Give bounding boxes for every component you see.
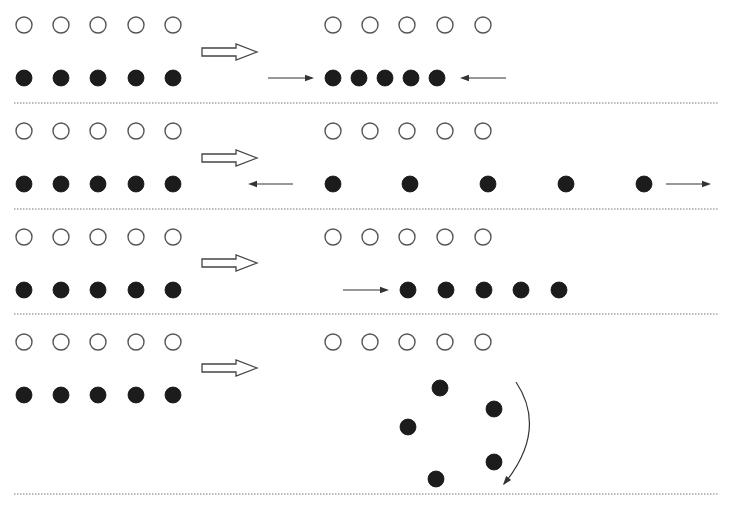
- filled-circle: [53, 176, 69, 192]
- open-circle: [16, 17, 32, 33]
- filled-circle: [325, 70, 341, 86]
- arrowhead-icon: [460, 75, 469, 81]
- open-circle: [437, 17, 453, 33]
- hollow-transition-arrow-icon: [202, 360, 257, 376]
- open-circle: [399, 229, 415, 245]
- arrowhead-icon: [702, 181, 711, 187]
- panel-3-shift: [14, 229, 718, 314]
- filled-circle: [476, 282, 492, 298]
- arrowhead-icon: [380, 287, 389, 293]
- open-circle: [437, 334, 453, 350]
- filled-circle: [325, 176, 341, 192]
- filled-circle: [438, 282, 454, 298]
- filled-circle: [636, 176, 652, 192]
- filled-circle: [429, 70, 445, 86]
- open-circle: [128, 123, 144, 139]
- filled-circle: [486, 454, 502, 470]
- open-circle: [90, 17, 106, 33]
- open-circle: [325, 334, 341, 350]
- filled-circle: [53, 70, 69, 86]
- filled-circle: [53, 282, 69, 298]
- open-circle: [90, 334, 106, 350]
- filled-circle: [16, 387, 32, 403]
- filled-circle: [128, 70, 144, 86]
- open-circle: [53, 334, 69, 350]
- filled-circle: [90, 70, 106, 86]
- open-circle: [362, 229, 378, 245]
- open-circle: [475, 17, 491, 33]
- filled-circle: [403, 70, 419, 86]
- open-circle: [90, 229, 106, 245]
- filled-circle: [165, 70, 181, 86]
- open-circle: [53, 229, 69, 245]
- panel-4-rotate: [14, 334, 718, 494]
- open-circle: [16, 334, 32, 350]
- open-circle: [437, 123, 453, 139]
- open-circle: [475, 123, 491, 139]
- filled-circle: [486, 401, 502, 417]
- filled-circle: [377, 70, 393, 86]
- filled-circle: [400, 282, 416, 298]
- filled-circle: [16, 176, 32, 192]
- open-circle: [399, 17, 415, 33]
- filled-circle: [128, 282, 144, 298]
- open-circle: [90, 123, 106, 139]
- open-circle: [128, 17, 144, 33]
- filled-circle: [351, 70, 367, 86]
- open-circle: [165, 229, 181, 245]
- open-circle: [128, 334, 144, 350]
- open-circle: [325, 123, 341, 139]
- filled-circle: [513, 282, 529, 298]
- filled-circle: [165, 282, 181, 298]
- rotation-arrow: [504, 382, 529, 484]
- circle-transformation-diagram: [0, 0, 730, 514]
- hollow-transition-arrow-icon: [202, 255, 257, 271]
- open-circle: [437, 229, 453, 245]
- open-circle: [53, 123, 69, 139]
- panel-1-compress: [14, 17, 718, 103]
- open-circle: [475, 229, 491, 245]
- filled-circle: [402, 176, 418, 192]
- filled-circle: [432, 380, 448, 396]
- hollow-transition-arrow-icon: [202, 44, 257, 60]
- hollow-transition-arrow-icon: [202, 150, 257, 166]
- open-circle: [165, 17, 181, 33]
- open-circle: [53, 17, 69, 33]
- open-circle: [399, 334, 415, 350]
- diagram-canvas: [0, 0, 730, 514]
- open-circle: [362, 17, 378, 33]
- filled-circle: [16, 282, 32, 298]
- filled-circle: [90, 282, 106, 298]
- open-circle: [16, 229, 32, 245]
- filled-circle: [90, 387, 106, 403]
- open-circle: [128, 229, 144, 245]
- arrowhead-icon: [248, 181, 257, 187]
- filled-circle: [53, 387, 69, 403]
- open-circle: [362, 334, 378, 350]
- filled-circle: [165, 176, 181, 192]
- filled-circle: [551, 282, 567, 298]
- filled-circle: [128, 176, 144, 192]
- filled-circle: [428, 471, 444, 487]
- panel-2-expand: [14, 123, 718, 209]
- open-circle: [165, 123, 181, 139]
- arrowhead-icon: [305, 75, 314, 81]
- open-circle: [362, 123, 378, 139]
- filled-circle: [16, 70, 32, 86]
- filled-circle: [400, 419, 416, 435]
- filled-circle: [558, 176, 574, 192]
- filled-circle: [90, 176, 106, 192]
- filled-circle: [165, 387, 181, 403]
- open-circle: [325, 17, 341, 33]
- filled-circle: [480, 176, 496, 192]
- open-circle: [475, 334, 491, 350]
- open-circle: [165, 334, 181, 350]
- open-circle: [325, 229, 341, 245]
- open-circle: [399, 123, 415, 139]
- filled-circle: [128, 387, 144, 403]
- open-circle: [16, 123, 32, 139]
